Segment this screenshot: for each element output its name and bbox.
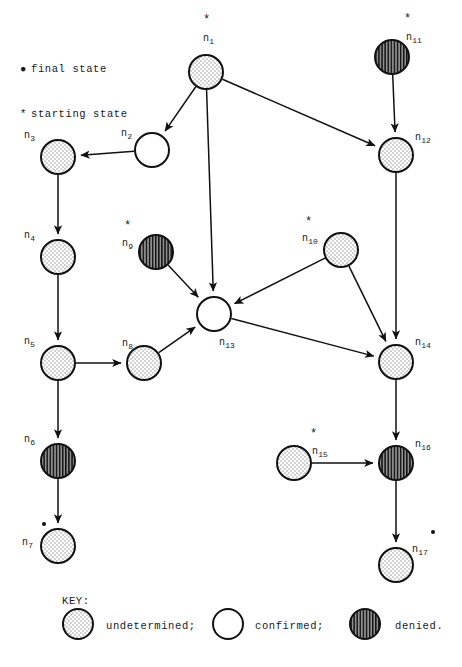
key-label-denied: denied. (395, 620, 443, 632)
starting-state-text: starting state (31, 108, 128, 120)
node-n10[interactable] (324, 233, 358, 267)
node-label-index: 6 (30, 438, 35, 447)
key-swatch-denied (350, 609, 380, 639)
node-n2[interactable] (135, 133, 169, 167)
key-label-confirmed: confirmed; (255, 620, 324, 632)
node-label-index: 12 (421, 136, 431, 145)
node-n15[interactable] (277, 446, 311, 480)
node-n13[interactable] (197, 297, 231, 331)
node-label-n3: n3 (24, 131, 35, 141)
node-n9[interactable] (139, 235, 173, 269)
legend-starting-state: *starting state (20, 107, 128, 122)
key-title: KEY: (62, 595, 90, 607)
node-label-n11: n11 (406, 33, 422, 43)
starting-state-marker-icon: * (20, 107, 31, 122)
diagram-canvas: ●final state *starting state KEY: undete… (0, 0, 462, 667)
node-label-index: 14 (421, 341, 431, 350)
key-swatch-confirmed (213, 609, 243, 639)
node-label-index: 17 (418, 548, 428, 557)
node-n4[interactable] (41, 240, 75, 274)
node-n11[interactable] (375, 40, 409, 74)
node-n8[interactable] (127, 346, 161, 380)
node-label-n4: n4 (24, 231, 35, 241)
node-label-n16: n16 (415, 440, 431, 450)
final-state-marker-n7 (42, 522, 46, 526)
node-label-n10: n10 (302, 234, 318, 244)
node-label-n13: n13 (219, 338, 235, 348)
node-label-index: 7 (28, 541, 33, 550)
edge-n1-to-n2 (165, 87, 196, 131)
node-n17[interactable] (379, 548, 413, 582)
starting-state-marker-n15: * (310, 428, 317, 440)
node-label-index: 2 (127, 132, 132, 141)
node-label-index: 9 (128, 242, 133, 251)
node-label-n7: n7 (22, 538, 33, 548)
starting-state-marker-n10: * (305, 216, 312, 228)
node-label-n6: n6 (24, 435, 35, 445)
starting-state-marker-n11: * (404, 13, 411, 25)
node-label-index: 3 (30, 134, 35, 143)
node-n16[interactable] (379, 446, 413, 480)
node-label-n1: n1 (203, 34, 214, 44)
edge-n10-to-n13 (235, 258, 325, 304)
node-label-n2: n2 (121, 129, 132, 139)
node-label-index: 16 (421, 443, 431, 452)
edge-n8-to-n13 (159, 327, 195, 352)
key-label-undetermined: undetermined; (106, 620, 196, 632)
node-n6[interactable] (41, 444, 75, 478)
node-label-index: 15 (318, 450, 328, 459)
starting-state-marker-n1: * (203, 14, 210, 26)
node-n12[interactable] (379, 138, 413, 172)
node-label-index: 11 (412, 36, 422, 45)
node-label-n15: n15 (312, 447, 328, 457)
edge-n1-to-n13 (207, 90, 214, 291)
node-label-n5: n5 (24, 337, 35, 347)
node-label-index: 4 (30, 234, 35, 243)
legend: ●final state *starting state (20, 32, 128, 152)
node-label-index: 13 (225, 341, 235, 350)
key-swatch-undetermined (63, 609, 93, 639)
node-n1[interactable] (189, 55, 223, 89)
edge-n13-to-n14 (231, 319, 373, 357)
edge-n10-to-n14 (349, 266, 386, 341)
node-label-n12: n12 (415, 133, 431, 143)
node-n14[interactable] (379, 345, 413, 379)
node-n5[interactable] (41, 346, 75, 380)
node-label-n9: n9 (122, 239, 133, 249)
final-state-text: final state (31, 63, 107, 75)
node-label-n8: n8 (122, 339, 133, 349)
node-label-index: 5 (30, 340, 35, 349)
node-label-index: 8 (128, 342, 133, 351)
final-state-marker-n17 (431, 530, 435, 534)
node-label-index: 10 (308, 237, 318, 246)
node-label-n17: n17 (412, 545, 428, 555)
node-label-index: 1 (209, 37, 214, 46)
node-label-n14: n14 (415, 338, 431, 348)
edge-n11-to-n12 (393, 75, 395, 132)
edge-n9-to-n13 (168, 265, 198, 297)
final-state-marker-icon: ● (20, 62, 31, 77)
starting-state-marker-n9: * (124, 220, 131, 232)
legend-final-state: ●final state (20, 62, 128, 77)
node-n7[interactable] (41, 529, 75, 563)
edge-n1-to-n12 (222, 79, 374, 146)
